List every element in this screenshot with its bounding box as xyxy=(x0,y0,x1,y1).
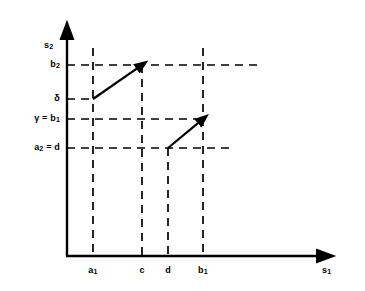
x-tick-label-a1: a1 xyxy=(79,266,107,275)
y-tick-label-a2-d: a2 = d xyxy=(8,143,60,152)
x-tick-text-d: d xyxy=(165,265,171,275)
y-tick-text-b2: b2 xyxy=(50,59,60,69)
x-axis-label: s1 xyxy=(322,266,331,275)
axes xyxy=(66,38,318,256)
y-axis-label-text: s2 xyxy=(44,40,53,50)
y-axis-label: s2 xyxy=(44,41,53,50)
x-tick-label-d: d xyxy=(154,266,182,275)
dashed-horizontal-lines xyxy=(67,65,258,148)
x-tick-text-a1: a1 xyxy=(88,265,97,275)
y-tick-text-a2-d: a2 = d xyxy=(34,142,60,152)
x-tick-text-b1: b1 xyxy=(198,265,208,275)
y-tick-label-delta: δ xyxy=(18,94,60,103)
vector-arrows xyxy=(93,67,200,148)
arrow-segment-1 xyxy=(93,67,139,99)
x-tick-label-b1: b1 xyxy=(189,266,217,275)
figure-canvas: s2 b2 δ γ = b1 a2 = d a1 c d b1 s1 xyxy=(0,0,365,291)
x-tick-text-c: c xyxy=(139,265,144,275)
x-axis-label-text: s1 xyxy=(322,265,331,275)
x-tick-label-c: c xyxy=(128,266,156,275)
y-tick-label-b2: b2 xyxy=(18,60,60,69)
y-tick-text-delta: δ xyxy=(54,93,60,103)
dashed-vertical-lines xyxy=(93,48,203,256)
y-tick-text-gamma-b1: γ = b1 xyxy=(34,113,60,123)
y-tick-label-gamma-b1: γ = b1 xyxy=(8,114,60,123)
arrow-segment-2 xyxy=(168,122,200,148)
